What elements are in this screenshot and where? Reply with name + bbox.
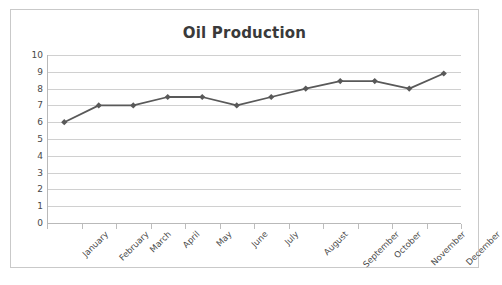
y-axis-tick-label: 0	[23, 218, 43, 228]
x-axis-tick-label: January	[81, 229, 111, 259]
y-axis-tick-labels: 012345678910	[21, 55, 43, 223]
data-point-marker	[96, 102, 102, 108]
x-axis-tick-label: June	[249, 229, 269, 249]
y-axis-tick-label: 9	[23, 67, 43, 77]
y-axis-tick-label: 5	[23, 134, 43, 144]
line-series-oil-production	[47, 55, 461, 223]
x-axis-tick-label: December	[464, 229, 502, 267]
y-axis-tick-label: 3	[23, 168, 43, 178]
data-point-marker	[234, 102, 240, 108]
y-axis-tick-label: 4	[23, 151, 43, 161]
data-point-marker	[61, 119, 67, 125]
chart-title: Oil Production	[11, 24, 478, 42]
x-axis-tick	[461, 224, 462, 229]
y-axis-tick-label: 1	[23, 201, 43, 211]
data-point-marker	[199, 94, 205, 100]
x-axis-tick-label: July	[283, 229, 301, 247]
x-axis-tick-labels: JanuaryFebruaryMarchAprilMayJuneJulyAugu…	[47, 229, 461, 274]
data-point-marker	[406, 86, 412, 92]
x-axis-tick-label: May	[214, 229, 234, 249]
data-point-marker	[130, 102, 136, 108]
x-axis-tick-label: August	[321, 229, 349, 257]
data-point-marker	[165, 94, 171, 100]
y-axis-tick-label: 10	[23, 50, 43, 60]
chart-figure: Oil Production 012345678910 JanuaryFebru…	[10, 9, 479, 268]
y-axis-tick-label: 6	[23, 117, 43, 127]
data-point-marker	[337, 78, 343, 84]
x-axis-tick-label: April	[180, 229, 201, 250]
data-point-marker	[372, 78, 378, 84]
data-point-marker	[268, 94, 274, 100]
series-line	[64, 73, 444, 122]
y-axis-tick-label: 8	[23, 84, 43, 94]
y-axis-tick-label: 2	[23, 184, 43, 194]
x-axis-tick-label: February	[117, 229, 151, 263]
data-point-marker	[441, 70, 447, 76]
x-axis-tick-label: November	[429, 229, 467, 267]
y-axis-tick-label: 7	[23, 100, 43, 110]
x-axis-tick-label: March	[148, 229, 173, 254]
data-point-marker	[303, 86, 309, 92]
